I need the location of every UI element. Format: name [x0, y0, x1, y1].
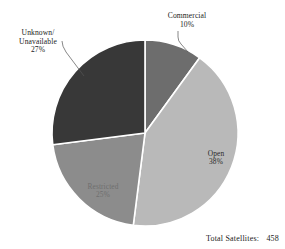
- slice-label-open: Open 38%: [196, 150, 236, 167]
- total-satellites-value: 458: [266, 234, 279, 243]
- pie-chart-figure: Commercial 10% Unknown/ Unavailable 27% …: [0, 0, 285, 249]
- pie-slice-restricted[interactable]: [53, 133, 145, 225]
- slice-label-open-percent: 38%: [196, 158, 236, 166]
- slice-label-commercial-name: Commercial: [168, 11, 207, 20]
- slice-label-restricted-percent: 25%: [74, 191, 132, 199]
- slice-label-unknown-line1: Unknown/: [22, 28, 55, 37]
- pie-slice-unknown-unavailable[interactable]: [52, 40, 145, 145]
- slice-label-restricted: Restricted 25%: [74, 183, 132, 200]
- slice-label-unknown-percent: 27%: [2, 46, 74, 55]
- total-satellites-label: Total Satellites:: [206, 234, 259, 243]
- slice-label-unknown-unavailable: Unknown/ Unavailable 27%: [2, 29, 74, 55]
- slice-label-commercial-percent: 10%: [150, 21, 224, 30]
- total-satellites-caption: Total Satellites: 458: [206, 234, 279, 243]
- slice-label-commercial: Commercial 10%: [150, 12, 224, 29]
